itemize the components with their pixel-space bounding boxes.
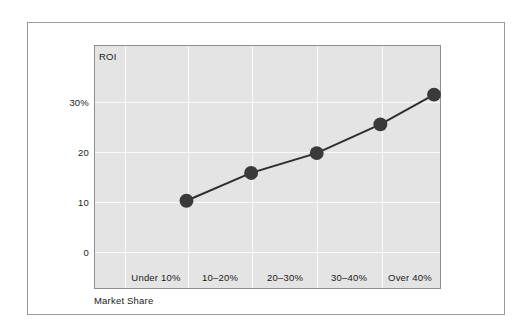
- x-axis-tick-label: 10–20%: [202, 272, 238, 283]
- data-point-marker: [310, 146, 324, 160]
- data-point-marker: [180, 194, 194, 208]
- x-axis-title: Market Share: [94, 295, 153, 306]
- data-point-marker: [373, 117, 387, 131]
- series-line: [186, 95, 434, 201]
- x-axis-tick-label: Over 40%: [388, 272, 432, 283]
- data-point-marker: [427, 88, 441, 102]
- x-axis-tick-label: 20–30%: [267, 272, 303, 283]
- plot-area: ROI 30% 20 10 0 Under 10% 10–20% 20–30%: [94, 45, 441, 289]
- y-axis-tick-label: 10: [78, 197, 89, 208]
- data-point-marker: [244, 166, 258, 180]
- x-axis-tick-label: Under 10%: [131, 272, 180, 283]
- data-series-roi: [95, 46, 440, 288]
- y-axis-tick-label: 30%: [69, 97, 89, 108]
- x-axis-tick-label: 30–40%: [331, 272, 367, 283]
- y-axis-tick-label: 20: [78, 147, 89, 158]
- y-axis-tick-label: 0: [84, 247, 89, 258]
- figure-frame: ROI 30% 20 10 0 Under 10% 10–20% 20–30%: [27, 22, 505, 315]
